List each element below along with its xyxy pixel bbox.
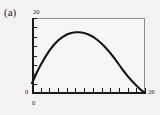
y-axis-max-label: 20	[33, 8, 40, 15]
x-axis-min-label: 0	[32, 99, 35, 106]
x-tick	[145, 88, 146, 92]
y-tick	[33, 93, 37, 94]
figure-panel: (a) 20 0 0 26	[0, 0, 160, 115]
data-curve	[32, 18, 145, 93]
y-axis-min-label: 0	[25, 88, 28, 95]
panel-label: (a)	[4, 6, 16, 18]
x-axis-max-label: 26	[148, 88, 155, 95]
